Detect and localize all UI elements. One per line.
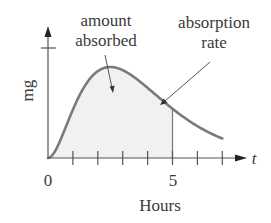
y-axis-arrow-icon bbox=[45, 26, 52, 37]
annotation-amount-line2: absorbed bbox=[66, 32, 146, 49]
x-axis-arrow-icon bbox=[235, 155, 247, 162]
x-tick-label-0: 0 bbox=[40, 172, 56, 189]
x-axis-symbol: t bbox=[248, 150, 260, 167]
absorption-rate-pointer bbox=[165, 62, 210, 101]
annotation-rate-line2: rate bbox=[160, 34, 268, 51]
x-tick-label-5: 5 bbox=[165, 172, 181, 189]
y-axis-label: mg bbox=[19, 74, 36, 108]
annotation-rate-line1: absorption bbox=[160, 14, 268, 31]
annotation-amount-line1: amount bbox=[66, 12, 146, 29]
x-axis-title: Hours bbox=[128, 197, 192, 214]
